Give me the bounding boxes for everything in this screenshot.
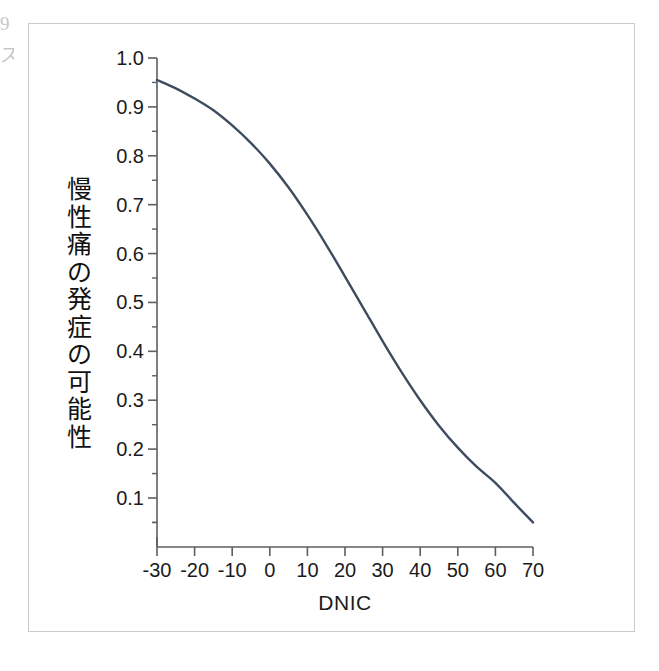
y-tick-label-9: 1.0 bbox=[88, 48, 144, 68]
y-tick-label-0: 0.1 bbox=[88, 488, 144, 508]
y-tick-label-1: 0.2 bbox=[88, 439, 144, 459]
page-edge-artifact-bottom: ス bbox=[0, 46, 14, 65]
y-tick-label-6: 0.7 bbox=[88, 195, 144, 215]
figure-root: 9 ス 慢性痛の発症の可能性 DNIC 0.10.20.30.40.50.60.… bbox=[0, 0, 659, 671]
y-tick-label-5: 0.6 bbox=[88, 244, 144, 264]
y-tick-label-8: 0.9 bbox=[88, 97, 144, 117]
y-tick-label-4: 0.5 bbox=[88, 292, 144, 312]
y-axis-title-char-5: 症 bbox=[62, 314, 96, 342]
y-tick-label-7: 0.8 bbox=[88, 146, 144, 166]
y-tick-label-2: 0.3 bbox=[88, 390, 144, 410]
x-tick-label-10: 70 bbox=[505, 560, 561, 580]
x-axis-title: DNIC bbox=[245, 592, 445, 613]
y-tick-label-3: 0.4 bbox=[88, 341, 144, 361]
page-edge-artifact-top: 9 bbox=[0, 14, 14, 33]
